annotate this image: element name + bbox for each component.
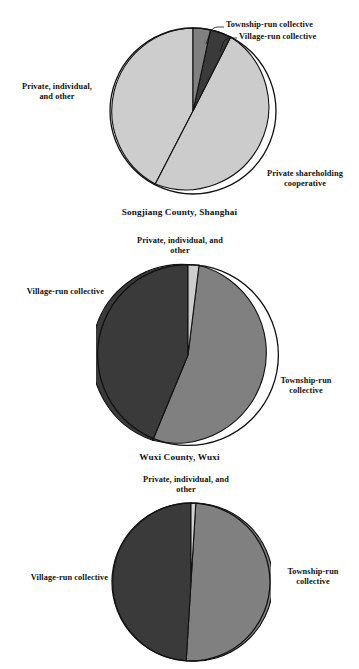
label-line-2: collective — [258, 386, 354, 396]
label-township-run-collective: Township-run collective — [258, 376, 354, 396]
label-line-2: collective — [270, 577, 356, 587]
chart-panel-songjiang: Township-run collective Village-run coll… — [0, 0, 359, 225]
pie-chart-figure: Township-run collective Village-run coll… — [0, 0, 359, 669]
chart-panel-third: Private, individual, and other Village-r… — [0, 466, 359, 669]
label-line-2: cooperative — [253, 179, 357, 189]
label-township-run-collective: Township-run collective — [270, 567, 356, 587]
label-line-1: Township-run — [258, 376, 354, 386]
label-line-1: Private, individual, and — [110, 236, 250, 246]
caption-wuxi: Wuxi County, Wuxi — [0, 452, 359, 462]
label-village-run-collective: Village-run collective — [2, 287, 104, 297]
label-village-run-collective: Village-run collective — [239, 32, 316, 42]
chart-panel-wuxi: Private, individual, and other Village-r… — [0, 230, 359, 462]
label-private-individual-and-other: Private, individual, and other — [116, 475, 256, 495]
label-line-2: and other — [8, 92, 106, 102]
slice-township-run-collective — [186, 503, 271, 661]
pie-chart-third — [111, 502, 271, 662]
label-line-2: other — [116, 485, 256, 495]
label-line-2: other — [110, 246, 250, 256]
label-private-individual-and-other: Private, individual, and other — [110, 236, 250, 256]
caption-songjiang: Songjiang County, Shanghai — [0, 207, 359, 217]
slice-village-run-collective — [113, 503, 191, 661]
label-private-individual-and-other: Private, individual, and other — [8, 82, 106, 102]
label-line-1: Private shareholding — [253, 169, 357, 179]
label-line-1: Private, individual, — [8, 82, 106, 92]
label-township-run-collective: Township-run collective — [226, 20, 313, 30]
label-line-1: Private, individual, and — [116, 475, 256, 485]
label-village-run-collective: Village-run collective — [6, 573, 108, 583]
label-private-shareholding-cooperative: Private shareholding cooperative — [253, 169, 357, 189]
pie-chart-wuxi — [96, 263, 280, 447]
leader-line-village-run — [213, 35, 239, 55]
label-line-1: Township-run — [270, 567, 356, 577]
